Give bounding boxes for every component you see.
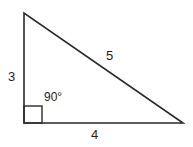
triangle-outline bbox=[24, 13, 183, 123]
right-angle-marker bbox=[24, 106, 42, 123]
right-triangle-diagram: 3 5 90° 4 bbox=[0, 0, 193, 147]
horizontal-side-label: 4 bbox=[91, 127, 98, 142]
right-angle-label: 90° bbox=[44, 90, 62, 104]
vertical-side-label: 3 bbox=[8, 69, 15, 84]
hypotenuse-label: 5 bbox=[106, 48, 113, 63]
